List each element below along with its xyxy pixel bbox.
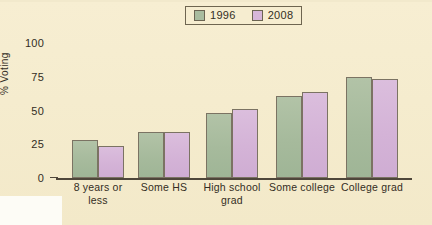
bar-2008-8-years-or-less: [98, 146, 124, 178]
scan-corner-artifact: [0, 196, 62, 225]
bar-2008-college-grad: [372, 79, 398, 178]
x-axis-tick-labels: 8 years orlessSome HSHigh schoolgradSome…: [62, 181, 414, 221]
y-axis-tick-25: 25: [18, 138, 44, 150]
bar-group: [206, 0, 258, 178]
x-axis-label-line: grad: [187, 194, 277, 207]
x-axis-line: [56, 178, 412, 180]
bar-1996-college-grad: [346, 77, 372, 178]
bar-2008-high-school-grad: [232, 109, 258, 178]
bar-2008-some-college: [302, 92, 328, 178]
y-axis-tick-labels: 0255075100: [18, 0, 44, 225]
y-axis-tick-100: 100: [18, 37, 44, 49]
x-axis-label-line: College grad: [327, 181, 417, 194]
bar-group: [72, 0, 124, 178]
y-axis-tick-75: 75: [18, 71, 44, 83]
bar-1996-high-school-grad: [206, 113, 232, 178]
chart-plot-area: [62, 0, 414, 178]
bar-1996-8-years-or-less: [72, 140, 98, 178]
y-axis-tick-50: 50: [18, 105, 44, 117]
y-axis-tick-0: 0: [18, 172, 44, 184]
bar-group: [276, 0, 328, 178]
y-axis-title: % Voting: [0, 52, 10, 95]
x-axis-label-college-grad: College grad: [327, 181, 417, 194]
bar-1996-some-college: [276, 96, 302, 178]
bar-group: [346, 0, 398, 178]
bar-1996-some-hs: [138, 132, 164, 178]
x-axis-label-line: less: [53, 194, 143, 207]
chart-screenshot: 1996 2008 % Voting 0255075100 8 years or…: [0, 0, 432, 225]
bar-2008-some-hs: [164, 132, 190, 178]
bar-group: [138, 0, 190, 178]
